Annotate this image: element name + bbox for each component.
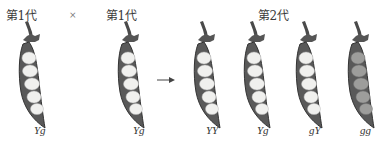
genotype-label-parent-1: Yg xyxy=(34,124,46,136)
pea-pod-offspring-2 xyxy=(240,20,280,132)
genotype-label-offspring-3: gY xyxy=(309,124,321,136)
pea-pod-parent-2 xyxy=(114,20,154,132)
pea-pod-offspring-1 xyxy=(190,20,230,132)
genotype-label-offspring-2: Yg xyxy=(257,124,269,136)
arrow-right-icon xyxy=(157,76,175,84)
pea-pod-parent-1 xyxy=(15,20,55,132)
genotype-label-offspring-4: gg xyxy=(360,124,371,136)
genotype-label-parent-2: Yg xyxy=(133,124,145,136)
pea-pod-offspring-4 xyxy=(344,20,384,132)
genotype-label-offspring-1: YY xyxy=(206,124,218,136)
pea-pod-offspring-3 xyxy=(292,20,332,132)
cross-symbol: × xyxy=(69,10,77,20)
